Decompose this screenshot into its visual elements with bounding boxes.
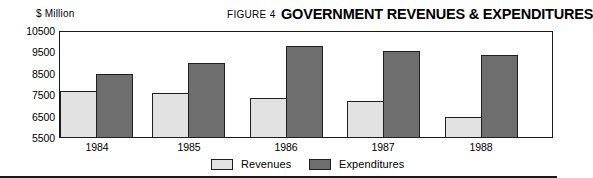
bar-revenues-1984	[60, 91, 97, 138]
bar-revenues-1985	[152, 93, 189, 138]
bar-expenditures-1984	[96, 74, 133, 138]
y-axis-tick: 8500	[32, 69, 55, 79]
x-axis: 1984 1985 1986 1987 1988	[59, 141, 553, 155]
x-axis-tick: 1986	[260, 141, 312, 153]
figure-number-label: FIGURE 4	[227, 9, 276, 20]
y-axis-tick: 6500	[32, 112, 55, 122]
legend-label-expenditures: Expenditures	[339, 158, 404, 170]
x-axis-tick: 1984	[71, 141, 123, 153]
legend-item-expenditures: Expenditures	[309, 158, 404, 170]
bars-layer	[59, 31, 553, 138]
x-axis-tick: 1987	[357, 141, 409, 153]
figure-bottom-rule	[0, 176, 557, 178]
bar-expenditures-1985	[188, 63, 225, 138]
bar-expenditures-1988	[481, 55, 518, 138]
legend-swatch-revenues-icon	[211, 159, 233, 170]
figure-title: GOVERNMENT REVENUES & EXPENDITURES	[281, 6, 593, 22]
x-axis-tick: 1985	[163, 141, 215, 153]
bar-revenues-1988	[445, 117, 482, 138]
bar-expenditures-1987	[383, 51, 420, 138]
chart-legend: Revenues Expenditures	[0, 158, 557, 172]
y-axis-tick: 9500	[32, 47, 55, 57]
y-axis-tick: 7500	[32, 90, 55, 100]
legend-swatch-expenditures-icon	[309, 159, 331, 170]
y-axis: 10500 9500 8500 7500 6500 5500	[0, 31, 55, 138]
y-axis-unit-label: $ Million	[36, 8, 74, 19]
bar-revenues-1987	[347, 101, 384, 138]
bar-expenditures-1986	[286, 46, 323, 138]
legend-label-revenues: Revenues	[241, 158, 291, 170]
y-axis-tick: 5500	[32, 133, 55, 143]
bar-revenues-1986	[250, 98, 287, 138]
y-axis-tick: 10500	[26, 26, 55, 36]
x-axis-tick: 1988	[455, 141, 507, 153]
legend-item-revenues: Revenues	[211, 158, 291, 170]
